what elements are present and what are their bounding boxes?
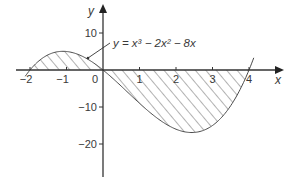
y-axis: 10−10−20 [78, 4, 107, 177]
x-axis-label: x [274, 73, 282, 87]
y-axis-label: y [87, 4, 95, 18]
annotation-leader-line [88, 43, 110, 58]
x-tick-label: −2 [20, 73, 33, 85]
cubic-area-chart: −2−101234 10−10−20 x y y = x³ − 2x² − 8x [0, 0, 294, 185]
y-tick-label: 10 [85, 27, 97, 39]
y-axis-arrow-icon [99, 4, 107, 13]
x-tick-label: −1 [56, 73, 69, 85]
x-tick-label: 4 [246, 73, 252, 85]
y-tick-label: −20 [78, 138, 97, 150]
equation-label: y = x³ − 2x² − 8x [112, 37, 197, 49]
x-tick-label: 0 [92, 73, 98, 85]
x-tick-label: 2 [173, 73, 179, 85]
y-tick-label: −10 [78, 101, 97, 113]
x-tick-label: 1 [136, 73, 142, 85]
x-tick-label: 3 [209, 73, 215, 85]
